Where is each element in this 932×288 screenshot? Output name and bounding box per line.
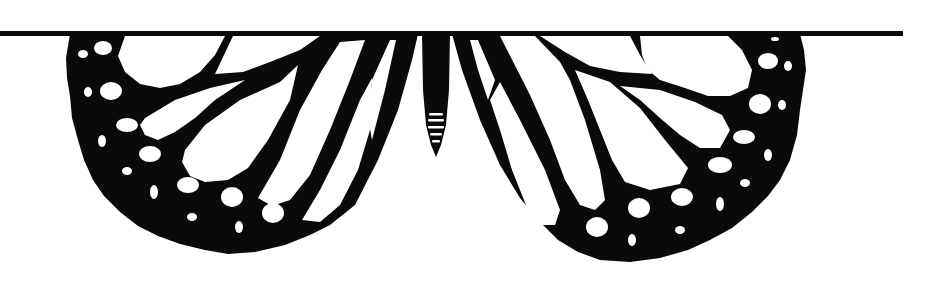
left-spot [187, 213, 197, 221]
left-spot [139, 146, 161, 162]
right-spot [708, 157, 732, 173]
abdomen-stripe [430, 133, 442, 136]
right-spot [778, 100, 786, 110]
left-spot [221, 187, 243, 207]
butterfly-abdomen [422, 34, 450, 157]
butterfly-illustration [0, 0, 932, 288]
right-spot [586, 217, 608, 237]
right-spot [628, 198, 650, 218]
left-spot [98, 135, 106, 147]
left-wing [66, 34, 418, 254]
right-spot [740, 179, 750, 187]
right-spot [784, 61, 792, 71]
left-spot [84, 87, 92, 97]
right-spot [749, 94, 771, 114]
right-spot [671, 188, 693, 206]
left-spot [100, 82, 122, 100]
right-spot [764, 149, 772, 161]
abdomen-stripe [429, 113, 443, 116]
right-spot [675, 226, 685, 234]
left-spot [94, 41, 112, 55]
left-spot [122, 167, 132, 175]
abdomen-stripe [428, 126, 444, 129]
left-spot [78, 50, 88, 58]
left-spot [150, 185, 158, 199]
right-spot [733, 130, 755, 144]
right-spot [758, 53, 778, 69]
right-spot [716, 197, 724, 211]
left-spot [235, 221, 243, 233]
abdomen-silhouette [422, 34, 450, 157]
right-wing [452, 34, 806, 262]
left-spot [262, 203, 284, 223]
abdomen-stripe [432, 140, 440, 143]
left-spot [177, 177, 199, 193]
left-spot [116, 118, 138, 132]
abdomen-stripe [428, 119, 444, 122]
right-spot [771, 37, 779, 41]
right-spot [628, 234, 636, 246]
